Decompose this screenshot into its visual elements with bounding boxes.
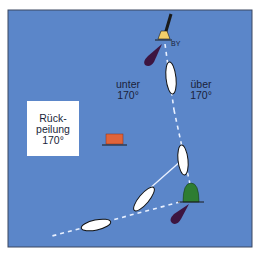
navigation-diagram: Rück- peilung 170° BY unter 170° über 17…: [0, 0, 259, 253]
left-zone-line-2: 170°: [110, 90, 146, 101]
right-zone-label: über 170°: [183, 79, 219, 101]
buoy-label: BY: [171, 40, 180, 47]
back-bearing-line-3: 170°: [27, 135, 79, 146]
left-zone-label: unter 170°: [110, 79, 146, 101]
back-bearing-label: Rück- peilung 170°: [27, 113, 79, 146]
right-zone-line-2: 170°: [183, 90, 219, 101]
red-marker-icon: [102, 134, 127, 145]
